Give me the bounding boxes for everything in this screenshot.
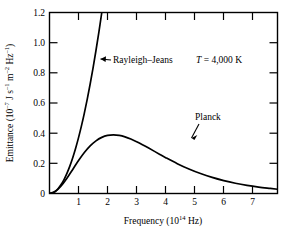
- temperature-label: T = 4,000 K: [196, 55, 242, 65]
- x-tick-label: 3: [134, 197, 139, 207]
- y-tick-label: 1.0: [33, 38, 45, 48]
- x-axis-title: Frequency (1014 Hz): [124, 214, 202, 227]
- y-tick-label: 0.2: [33, 159, 45, 169]
- x-tick-label: 2: [105, 197, 110, 207]
- y-tick-label: 1.2: [33, 8, 45, 18]
- x-tick-label: 5: [192, 197, 197, 207]
- blackbody-radiation-figure: 1 2 3 4 5 6 7 0 0.2 0.4 0.6 0.8 1.0 1.2 …: [0, 0, 297, 233]
- y-axis-title-p2: J s: [5, 90, 15, 102]
- temperature-value: = 4,000 K: [201, 55, 242, 65]
- y-axis-title: Emittance (10–7 J s–1 m–2 Hz–1): [3, 44, 16, 162]
- y-tick-label: 0: [40, 189, 45, 199]
- x-tick-label: 1: [76, 197, 81, 207]
- y-axis-title-p1: Emittance (10: [5, 108, 16, 162]
- y-axis-title-e3: –2: [3, 67, 10, 75]
- y-axis-title-p4: Hz: [5, 54, 15, 67]
- y-axis-title-e2: –1: [3, 83, 10, 91]
- x-axis-title-tail: Hz): [186, 216, 203, 227]
- x-axis-title-main: Frequency (10: [124, 216, 179, 227]
- x-tick-label: 7: [250, 197, 255, 207]
- y-axis-title-p5: ): [5, 44, 16, 47]
- rayleigh-jeans-label: Rayleigh–Jeans: [113, 55, 173, 65]
- y-tick-label: 0.6: [33, 98, 45, 108]
- plot-frame: [50, 13, 278, 194]
- y-tick-labels: 0 0.2 0.4 0.6 0.8 1.0 1.2: [33, 8, 45, 199]
- x-tick-label: 4: [163, 197, 168, 207]
- planck-label: Planck: [195, 112, 221, 122]
- plot-canvas: 1 2 3 4 5 6 7 0 0.2 0.4 0.6 0.8 1.0 1.2 …: [0, 0, 297, 233]
- x-tick-label: 6: [221, 197, 226, 207]
- y-axis-title-e4: –1: [3, 47, 10, 55]
- x-tick-labels: 1 2 3 4 5 6 7: [76, 197, 255, 207]
- y-tick-label: 0.8: [33, 68, 45, 78]
- y-tick-label: 0.4: [33, 129, 45, 139]
